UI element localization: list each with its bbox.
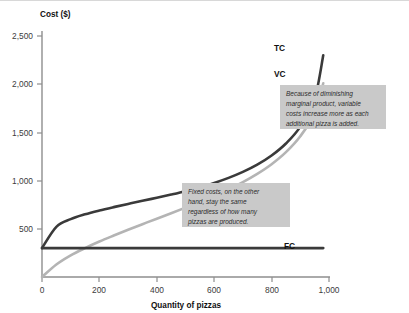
x-axis-ticks: [42, 277, 329, 282]
y-axis-title: Cost ($): [40, 10, 71, 19]
y-tick-label: 2,000: [12, 79, 33, 89]
annotation-line: pizzas are produced.: [187, 218, 249, 226]
x-tick-label: 1,000: [319, 285, 340, 295]
y-tick-label: 2,500: [12, 31, 33, 41]
annotation-line: costs increase more as each: [286, 110, 369, 117]
chart-canvas: Cost ($) 2,500 2,000 1,500 1,000 500: [0, 1, 409, 313]
annotation-line: regardless of how many: [188, 208, 258, 216]
cost-curves-figure: Cost ($) 2,500 2,000 1,500 1,000 500: [0, 0, 409, 313]
x-tick-label: 200: [92, 285, 106, 295]
annotation-line: hand, stay the same: [188, 198, 247, 206]
annotation-line: additional pizza is added.: [286, 120, 359, 128]
annotation-line: Fixed costs, on the other: [188, 188, 260, 195]
variable-cost-annotation: Because of diminishing marginal product,…: [280, 85, 386, 129]
series-label-tc: TC: [274, 43, 285, 53]
annotation-line: Because of diminishing: [286, 90, 353, 98]
x-axis-tick-labels: 0 200 400 600 800 1,000: [40, 285, 340, 295]
x-axis-title: Quantity of pizzas: [151, 301, 222, 310]
series-label-vc: VC: [274, 69, 286, 79]
y-tick-label: 500: [19, 224, 33, 234]
annotation-line: marginal product, variable: [286, 100, 361, 108]
y-tick-label: 1,000: [12, 176, 33, 186]
y-tick-label: 1,500: [12, 128, 33, 138]
fixed-cost-annotation: Fixed costs, on the other hand, stay the…: [182, 183, 290, 227]
x-tick-label: 800: [265, 285, 279, 295]
y-axis-tick-labels: 2,500 2,000 1,500 1,000 500: [12, 31, 33, 234]
x-tick-label: 600: [207, 285, 221, 295]
y-axis-ticks: [37, 36, 42, 229]
x-tick-label: 400: [150, 285, 164, 295]
x-tick-label: 0: [40, 285, 45, 295]
series-label-fc: FC: [284, 241, 295, 251]
